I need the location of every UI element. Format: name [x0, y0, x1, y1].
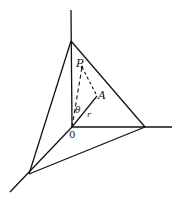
- edge-right-bottom: [29, 127, 145, 174]
- dashed-PA: [82, 67, 97, 96]
- label-r: r: [87, 110, 92, 119]
- z-axis: [71, 10, 72, 127]
- label-P: P: [75, 57, 84, 70]
- edge-bottom-top: [29, 41, 71, 174]
- label-theta: θ: [75, 105, 81, 115]
- dashed-OP: [72, 67, 82, 127]
- label-O: 0: [69, 129, 75, 140]
- label-A: A: [97, 89, 106, 102]
- tetrahedron-diagram: P A 0 θ r: [0, 0, 184, 202]
